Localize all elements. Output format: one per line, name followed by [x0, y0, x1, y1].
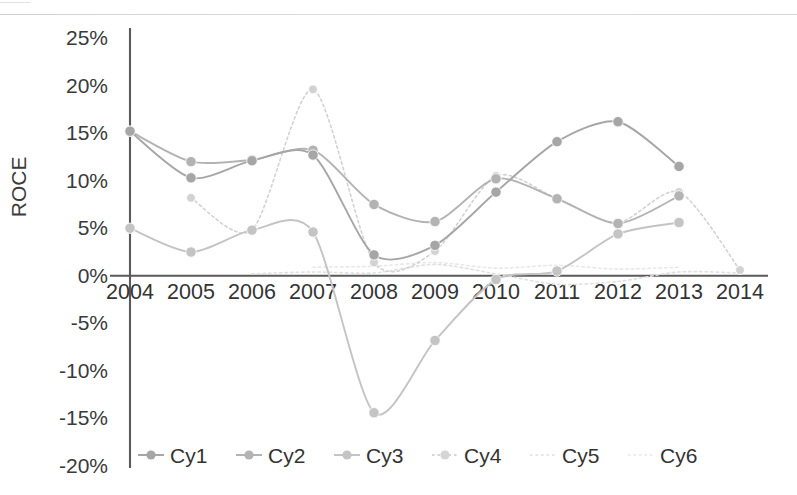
- series-marker: [125, 126, 135, 136]
- series-marker: [430, 240, 440, 250]
- legend-label: Cy2: [268, 444, 305, 467]
- series-cy4: [187, 85, 745, 275]
- series-marker: [613, 117, 623, 127]
- series-marker: [552, 266, 562, 276]
- series-marker: [125, 223, 135, 233]
- legend-item-cy2[interactable]: Cy2: [236, 444, 305, 467]
- y-axis-tick-label: -15%: [59, 406, 108, 429]
- series-line: [191, 89, 740, 271]
- series-marker: [430, 216, 440, 226]
- series-marker: [247, 155, 257, 165]
- y-axis-title: ROCE: [7, 157, 30, 218]
- series-marker: [369, 199, 379, 209]
- legend-item-cy6[interactable]: Cy6: [628, 444, 697, 467]
- roce-line-chart: 25%20%15%10%5%0%-5%-10%-15%-20%ROCE20042…: [0, 0, 797, 495]
- series-marker: [187, 193, 196, 202]
- series-marker: [308, 227, 318, 237]
- series-marker: [430, 335, 440, 345]
- series-marker: [674, 191, 684, 201]
- series-cy1: [125, 117, 684, 261]
- legend-label: Cy3: [366, 444, 403, 467]
- series-marker: [674, 217, 684, 227]
- series-cy3: [125, 217, 684, 418]
- series-marker: [552, 136, 562, 146]
- legend-item-cy1[interactable]: Cy1: [138, 444, 207, 467]
- series-marker: [309, 85, 318, 94]
- series-marker: [674, 161, 684, 171]
- series-marker: [369, 408, 379, 418]
- legend-marker-swatch: [146, 450, 155, 459]
- legend-label: Cy6: [660, 444, 697, 467]
- y-axis-tick-label: 15%: [66, 121, 108, 144]
- series-marker: [369, 250, 379, 260]
- series-cy6: [313, 262, 679, 269]
- series-line: [313, 262, 679, 269]
- series-marker: [613, 229, 623, 239]
- x-axis-tick-label: 2008: [350, 280, 398, 304]
- series-marker: [308, 150, 318, 160]
- series-line: [130, 131, 679, 223]
- x-axis-tick-label: 2009: [411, 280, 459, 304]
- y-axis-tick-label: 5%: [78, 216, 108, 239]
- series-marker: [491, 274, 501, 284]
- legend-item-cy4[interactable]: Cy4: [432, 444, 502, 467]
- legend-item-cy3[interactable]: Cy3: [334, 444, 403, 467]
- y-axis-tick-label: 10%: [66, 169, 108, 192]
- legend-marker-swatch: [244, 450, 253, 459]
- series-marker: [491, 187, 501, 197]
- x-axis-tick-label: 2006: [228, 280, 276, 304]
- y-axis-tick-label: 0%: [78, 264, 108, 287]
- series-line: [130, 121, 679, 259]
- legend-label: Cy5: [562, 444, 599, 467]
- series-marker: [186, 156, 196, 166]
- series-marker: [736, 266, 745, 275]
- x-axis-tick-label: 2007: [289, 280, 337, 304]
- x-axis-tick-label: 2014: [716, 280, 764, 304]
- x-axis-tick-label: 2013: [655, 280, 703, 304]
- y-axis-tick-label: -5%: [71, 311, 108, 334]
- x-axis-tick-label: 2011: [534, 280, 580, 304]
- series-marker: [491, 174, 501, 184]
- legend-label: Cy1: [170, 444, 207, 467]
- legend-marker-swatch: [440, 450, 449, 459]
- chart-container: 25%20%15%10%5%0%-5%-10%-15%-20%ROCE20042…: [0, 0, 797, 495]
- x-axis-tick-label: 2004: [106, 280, 154, 304]
- series-marker: [186, 173, 196, 183]
- series-marker: [247, 225, 257, 235]
- series-marker: [186, 247, 196, 257]
- y-axis-tick-label: -20%: [59, 454, 108, 477]
- legend-item-cy5[interactable]: Cy5: [530, 444, 599, 467]
- y-axis-tick-label: 20%: [66, 74, 108, 97]
- y-axis-tick-label: 25%: [66, 26, 108, 49]
- legend-marker-swatch: [342, 450, 351, 459]
- series-line: [130, 220, 679, 415]
- x-axis-tick-label: 2005: [167, 280, 215, 304]
- series-marker: [613, 218, 623, 228]
- y-axis-tick-label: -10%: [59, 359, 108, 382]
- legend-label: Cy4: [464, 444, 502, 467]
- series-marker: [552, 194, 562, 204]
